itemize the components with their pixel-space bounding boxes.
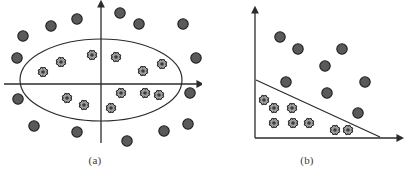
panel-caption-a: (a) [0, 154, 196, 166]
cross-marker [86, 49, 98, 61]
cross-core [307, 121, 311, 125]
cross-marker [329, 124, 341, 136]
cross-marker [61, 92, 73, 104]
cross-core [41, 70, 45, 74]
cross-core [114, 55, 118, 59]
circle-marker [46, 21, 56, 31]
cross-marker [286, 102, 298, 114]
circle-marker [178, 19, 188, 29]
cross-marker [153, 89, 165, 101]
cross-core [157, 93, 161, 97]
cross-marker [342, 124, 354, 136]
circle-marker [353, 108, 363, 118]
series-circle_class [12, 8, 201, 146]
series-cross_class [37, 49, 168, 114]
cross-core [272, 121, 276, 125]
cross-core [82, 103, 86, 107]
cross-marker [137, 65, 149, 77]
cross-core [291, 121, 295, 125]
cross-core [333, 128, 337, 132]
circle-marker [72, 14, 82, 24]
circle-marker [18, 31, 28, 41]
cross-core [109, 106, 113, 110]
scatter-plot-a [0, 0, 202, 150]
circle-marker [281, 77, 291, 87]
cross-marker [78, 99, 90, 111]
data-points-b [258, 32, 370, 136]
cross-core [272, 106, 276, 110]
cross-marker [115, 87, 127, 99]
circle-marker [13, 94, 23, 104]
cross-core [59, 60, 63, 64]
figure-root: (a) (b) [0, 0, 404, 179]
circle-marker [320, 61, 330, 71]
cross-core [290, 106, 294, 110]
circle-marker [360, 77, 370, 87]
circle-marker [122, 136, 132, 146]
circle-marker [115, 8, 125, 18]
panel-b: (b) [202, 0, 404, 179]
cross-marker [110, 51, 122, 63]
circle-marker [275, 32, 285, 42]
cross-core [90, 53, 94, 57]
cross-core [262, 98, 266, 102]
panel-a: (a) [0, 0, 202, 179]
cross-marker [139, 87, 151, 99]
circle-marker [134, 19, 144, 29]
circle-marker [337, 44, 347, 54]
cross-marker [258, 94, 270, 106]
cross-marker [268, 117, 280, 129]
circle-marker [191, 53, 201, 63]
cross-marker [156, 58, 168, 70]
circle-marker [185, 88, 195, 98]
panel-caption-b: (b) [206, 154, 404, 166]
cross-core [65, 96, 69, 100]
circle-marker [293, 44, 303, 54]
cross-core [160, 62, 164, 66]
cross-marker [268, 102, 280, 114]
cross-marker [37, 66, 49, 78]
circle-marker [12, 53, 22, 63]
circle-marker [72, 127, 82, 137]
scatter-plot-b [202, 0, 404, 150]
cross-core [143, 91, 147, 95]
cross-core [119, 91, 123, 95]
cross-marker [303, 117, 315, 129]
circle-marker [322, 88, 332, 98]
cross-marker [105, 102, 117, 114]
cross-core [346, 128, 350, 132]
series-cross_class [258, 94, 354, 136]
circle-marker [159, 126, 169, 136]
cross-marker [287, 117, 299, 129]
circle-marker [183, 119, 193, 129]
circle-marker [29, 121, 39, 131]
cross-core [141, 69, 145, 73]
data-points-a [12, 8, 201, 146]
cross-marker [55, 56, 67, 68]
